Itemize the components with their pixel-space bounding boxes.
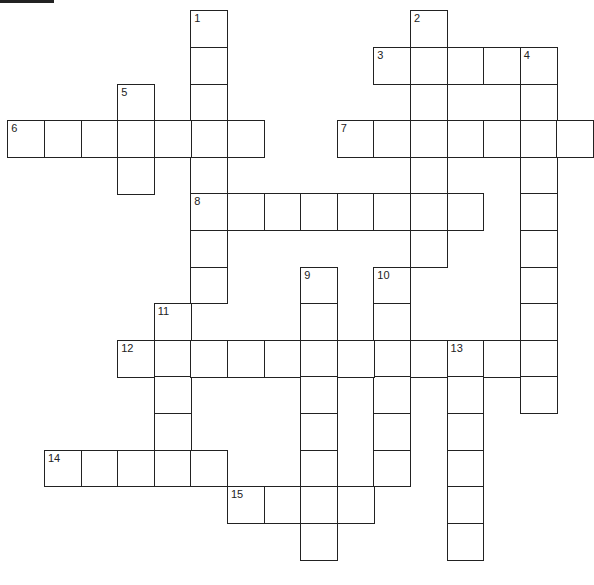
- crossword-cell[interactable]: [154, 450, 192, 488]
- crossword-cell[interactable]: [447, 486, 485, 524]
- crossword-cell[interactable]: [373, 450, 411, 488]
- crossword-cell[interactable]: [300, 523, 338, 561]
- crossword-cell[interactable]: [117, 450, 155, 488]
- clue-number: 6: [11, 122, 17, 134]
- crossword-cell[interactable]: 13: [447, 340, 485, 378]
- crossword-cell[interactable]: [337, 193, 375, 231]
- crossword-cell[interactable]: [447, 450, 485, 488]
- crossword-cell[interactable]: [227, 120, 265, 158]
- crossword-cell[interactable]: [520, 157, 558, 195]
- crossword-cell[interactable]: [81, 120, 119, 158]
- crossword-cell[interactable]: [410, 84, 448, 122]
- clue-number: 15: [231, 488, 243, 500]
- crossword-cell[interactable]: [227, 193, 265, 231]
- crossword-cell[interactable]: [190, 267, 228, 305]
- crossword-cell[interactable]: [410, 340, 448, 378]
- crossword-cell[interactable]: [190, 230, 228, 268]
- crossword-cell[interactable]: 11: [154, 303, 192, 341]
- crossword-cell[interactable]: [410, 157, 448, 195]
- crossword-cell[interactable]: 5: [117, 84, 155, 122]
- crossword-cell[interactable]: [190, 84, 228, 122]
- crossword-cell[interactable]: [410, 120, 448, 158]
- crossword-cell[interactable]: [117, 157, 155, 195]
- clue-number: 8: [194, 195, 200, 207]
- crossword-cell[interactable]: 4: [520, 47, 558, 85]
- crossword-cell[interactable]: [44, 120, 82, 158]
- crossword-cell[interactable]: 10: [373, 267, 411, 305]
- clue-number: 2: [414, 12, 420, 24]
- crossword-cell[interactable]: 14: [44, 450, 82, 488]
- crossword-cell[interactable]: [520, 193, 558, 231]
- crossword-cell[interactable]: [483, 340, 521, 378]
- crossword-cell[interactable]: [373, 193, 411, 231]
- crossword-cell[interactable]: 8: [190, 193, 228, 231]
- crossword-cell[interactable]: 6: [7, 120, 45, 158]
- crossword-cell[interactable]: 12: [117, 340, 155, 378]
- crossword-cell[interactable]: [190, 340, 228, 378]
- crossword-cell[interactable]: [447, 47, 485, 85]
- crossword-cell[interactable]: [447, 120, 485, 158]
- crossword-cell[interactable]: [154, 376, 192, 414]
- crossword-cell[interactable]: [410, 193, 448, 231]
- crossword-cell[interactable]: [520, 120, 558, 158]
- crossword-cell[interactable]: [264, 340, 302, 378]
- crossword-cell[interactable]: [447, 193, 485, 231]
- crossword-cell[interactable]: 15: [227, 486, 265, 524]
- crossword-cell[interactable]: [373, 303, 411, 341]
- crossword-cell[interactable]: [520, 230, 558, 268]
- crossword-cell[interactable]: [337, 486, 375, 524]
- crossword-cell[interactable]: [410, 230, 448, 268]
- crossword-cell[interactable]: [373, 376, 411, 414]
- crossword-cell[interactable]: [373, 413, 411, 451]
- crossword-cell[interactable]: 1: [190, 10, 228, 48]
- crossword-cell[interactable]: [520, 340, 558, 378]
- clue-number: 1: [194, 12, 200, 24]
- crossword-cell[interactable]: [264, 486, 302, 524]
- crossword-cell[interactable]: [447, 523, 485, 561]
- crossword-cell[interactable]: [337, 340, 375, 378]
- clue-number: 5: [121, 86, 127, 98]
- crossword-cell[interactable]: [300, 486, 338, 524]
- crossword-cell[interactable]: [520, 303, 558, 341]
- crossword-cell[interactable]: [300, 193, 338, 231]
- crossword-cell[interactable]: [300, 340, 338, 378]
- crossword-cell[interactable]: 2: [410, 10, 448, 48]
- clue-number: 10: [377, 269, 389, 281]
- crossword-cell[interactable]: [373, 120, 411, 158]
- crossword-cell[interactable]: [300, 413, 338, 451]
- crossword-cell[interactable]: [81, 450, 119, 488]
- crossword-cell[interactable]: [520, 376, 558, 414]
- crossword-cell[interactable]: [190, 120, 228, 158]
- crossword-cell[interactable]: [447, 413, 485, 451]
- clue-number: 13: [451, 342, 463, 354]
- crossword-cell[interactable]: [520, 267, 558, 305]
- crossword-cell[interactable]: [190, 157, 228, 195]
- crossword-cell[interactable]: [227, 340, 265, 378]
- clue-number: 4: [524, 49, 530, 61]
- crossword-cell[interactable]: [264, 193, 302, 231]
- crossword-cell[interactable]: [410, 47, 448, 85]
- crossword-cell[interactable]: [190, 450, 228, 488]
- crossword-cell[interactable]: [483, 47, 521, 85]
- crossword-cell[interactable]: [154, 413, 192, 451]
- crossword-cell[interactable]: [373, 340, 411, 378]
- crossword-cell[interactable]: [154, 120, 192, 158]
- crossword-cell[interactable]: [300, 303, 338, 341]
- crossword-cell[interactable]: 7: [337, 120, 375, 158]
- clue-number: 9: [304, 269, 310, 281]
- crossword-cell[interactable]: 9: [300, 267, 338, 305]
- crossword-cell[interactable]: [117, 120, 155, 158]
- crossword-cell[interactable]: [556, 120, 594, 158]
- crossword-cell[interactable]: 3: [373, 47, 411, 85]
- crossword-cell[interactable]: [190, 47, 228, 85]
- crossword-cell[interactable]: [300, 376, 338, 414]
- clue-number: 7: [341, 122, 347, 134]
- crossword-cell[interactable]: [447, 376, 485, 414]
- crossword-cell[interactable]: [520, 84, 558, 122]
- crossword-cell[interactable]: [483, 120, 521, 158]
- clue-number: 12: [121, 342, 133, 354]
- clue-number: 3: [377, 49, 383, 61]
- crossword-cell[interactable]: [300, 450, 338, 488]
- crossword-cell[interactable]: [154, 340, 192, 378]
